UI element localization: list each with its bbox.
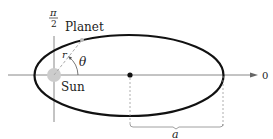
orbit-diagram: π 2 Planet Sun r θ 0 a (0, 0, 273, 139)
two-label: 2 (51, 19, 57, 29)
a-label: a (172, 128, 179, 139)
sun-label: Sun (61, 80, 85, 94)
ellipse-center (127, 72, 132, 77)
theta-label: θ (79, 55, 87, 69)
planet (80, 38, 84, 42)
pi-label: π (49, 7, 57, 18)
zero-label: 0 (262, 70, 268, 81)
theta-arc (69, 57, 78, 75)
planet-label: Planet (65, 20, 104, 34)
polar-axis-arrow-icon (250, 73, 258, 78)
